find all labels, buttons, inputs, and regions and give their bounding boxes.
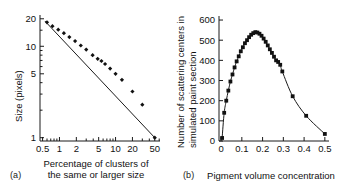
panel-a: (a) Size (pixels) Percentage of clusters… (0, 0, 172, 192)
panel-a-y-tick-label: 20 (25, 13, 36, 24)
panel-b: (b) Number of scattering centers in simu… (169, 0, 341, 192)
panel-b-y-tick-label: 500 (199, 35, 215, 46)
panel-a-x-tick-label: 50 (149, 143, 160, 154)
panel-b-y-tick-label: 0 (210, 135, 215, 146)
panel-b-y-tick-label: 200 (199, 95, 215, 106)
panel-b-x-tick-label: 0.5 (318, 143, 331, 154)
panel-b-data-points (220, 30, 327, 140)
panel-a-x-tick-label: 5 (96, 143, 101, 154)
panel-b-x-tick-label: 0.3 (277, 143, 290, 154)
panel-b-y-tick-label: 600 (199, 14, 215, 25)
panel-a-x-tick-label: 1 (57, 143, 62, 154)
panel-a-y-tick-label: 1 (31, 132, 36, 143)
panel-a-x-tick-label: 0.5 (36, 143, 49, 154)
panel-a-x-tick-label: 10 (110, 143, 121, 154)
panel-b-x-tick-label: 0.1 (235, 143, 248, 154)
panel-b-y-tick-label: 400 (199, 55, 215, 66)
panel-a-plot: 0.5125102050151020 (0, 0, 172, 192)
panel-b-y-tick-label: 300 (199, 75, 215, 86)
panel-b-x-tick-label: 0.4 (297, 143, 310, 154)
panel-a-x-tick-label: 20 (127, 143, 138, 154)
panel-b-y-tick-label: 100 (199, 115, 215, 126)
panel-b-x-tick-label: 0 (218, 143, 223, 154)
panel-b-x-tick-label: 0.2 (256, 143, 269, 154)
panel-b-plot: 00.10.20.30.40.50100200300400500600 (169, 0, 341, 192)
figure-container: (a) Size (pixels) Percentage of clusters… (0, 0, 341, 192)
panel-a-x-tick-label: 2 (74, 143, 79, 154)
panel-a-y-tick-label: 10 (25, 41, 36, 52)
panel-a-y-tick-label: 5 (31, 68, 36, 79)
